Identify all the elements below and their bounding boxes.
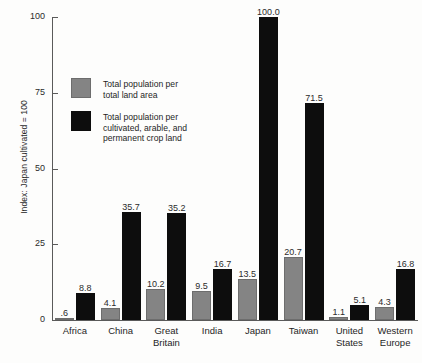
bar: 5.1 bbox=[350, 305, 369, 320]
bar-group: 10.235.2 bbox=[144, 17, 190, 320]
bar-group: 4.316.8 bbox=[372, 17, 418, 320]
y-axis-tick-label: 75 bbox=[15, 87, 45, 97]
bar: 10.2 bbox=[146, 289, 165, 320]
bar-value-label: 35.7 bbox=[122, 202, 140, 212]
bar: 4.1 bbox=[101, 308, 120, 320]
bar-value-label: 1.1 bbox=[333, 307, 346, 317]
bar: 100.0 bbox=[259, 17, 278, 320]
bar-value-label: 71.5 bbox=[305, 93, 323, 103]
bar: 1.1 bbox=[329, 317, 348, 320]
bar-value-label: 16.7 bbox=[214, 259, 232, 269]
bar: 20.7 bbox=[284, 257, 303, 320]
y-axis-tick-label: 50 bbox=[15, 163, 45, 173]
bar-group: 13.5100.0 bbox=[235, 17, 281, 320]
bar-group: 20.771.5 bbox=[281, 17, 327, 320]
bar-value-label: 9.5 bbox=[195, 281, 208, 291]
bar-value-label: 5.1 bbox=[354, 295, 367, 305]
y-axis-tick-label: 100 bbox=[15, 11, 45, 21]
bar-value-label: 13.5 bbox=[239, 269, 257, 279]
bar: 35.2 bbox=[167, 213, 186, 320]
bar-value-label: 4.3 bbox=[378, 297, 391, 307]
bar: 35.7 bbox=[122, 212, 141, 320]
legend-item: Total population per cultivated, arable,… bbox=[71, 111, 187, 144]
bar-value-label: 4.1 bbox=[104, 298, 117, 308]
bar-group: .68.8 bbox=[52, 17, 98, 320]
bar: 13.5 bbox=[238, 279, 257, 320]
bar: 9.5 bbox=[192, 291, 211, 320]
chart-legend: Total population per total land areaTota… bbox=[71, 78, 187, 155]
y-axis-tick-label: 25 bbox=[15, 238, 45, 248]
bar-value-label: 20.7 bbox=[284, 247, 302, 257]
plot-area: .68.84.135.710.235.29.516.713.5100.020.7… bbox=[52, 17, 418, 320]
bar-value-label: 35.2 bbox=[168, 203, 186, 213]
y-axis-tick bbox=[52, 320, 58, 321]
bar-group: 1.15.1 bbox=[327, 17, 373, 320]
bar: .6 bbox=[55, 318, 74, 320]
y-axis-title: Index: Japan cultivated = 100 bbox=[19, 47, 29, 267]
legend-item: Total population per total land area bbox=[71, 78, 187, 100]
bar-value-label: 10.2 bbox=[147, 279, 165, 289]
bar-value-label: .6 bbox=[61, 308, 69, 318]
bar: 8.8 bbox=[76, 293, 95, 320]
bar-group: 4.135.7 bbox=[98, 17, 144, 320]
bar: 16.8 bbox=[396, 269, 415, 320]
bar: 16.7 bbox=[213, 269, 232, 320]
bar-group: 9.516.7 bbox=[189, 17, 235, 320]
legend-label: Total population per total land area bbox=[103, 78, 178, 100]
bar-value-label: 100.0 bbox=[257, 7, 280, 17]
x-axis-line bbox=[52, 320, 418, 321]
y-axis-tick-label: 0 bbox=[15, 314, 45, 324]
x-axis-label-western-europe: WesternEurope bbox=[364, 325, 422, 348]
bar: 4.3 bbox=[375, 307, 394, 320]
bar-chart: Index: Japan cultivated = 100 0255075100… bbox=[0, 0, 422, 363]
legend-swatch-gray bbox=[71, 78, 91, 98]
bar-value-label: 16.8 bbox=[397, 259, 415, 269]
bar-value-label: 8.8 bbox=[79, 283, 92, 293]
legend-swatch-black bbox=[71, 111, 91, 131]
bar: 71.5 bbox=[305, 103, 324, 320]
legend-label: Total population per cultivated, arable,… bbox=[103, 111, 187, 144]
